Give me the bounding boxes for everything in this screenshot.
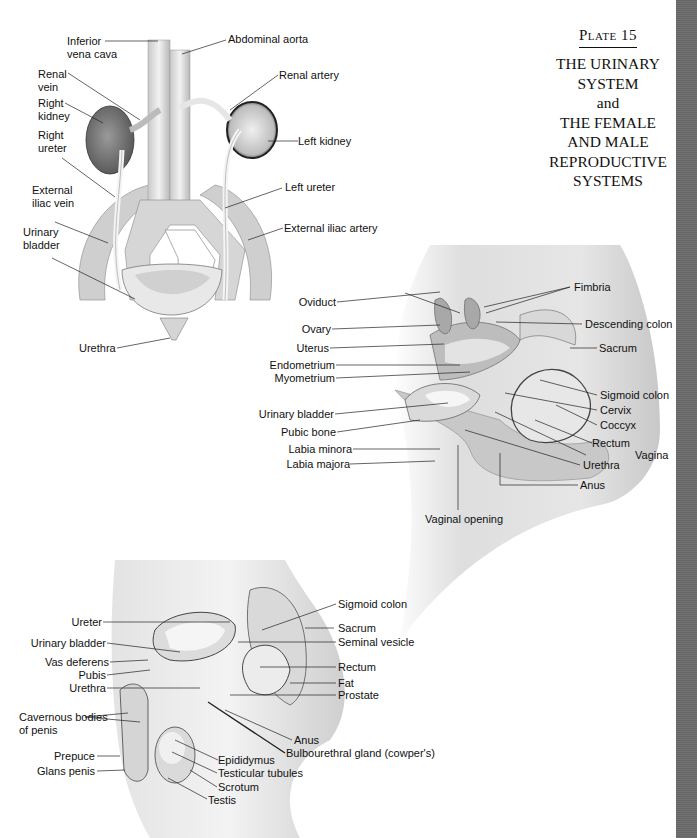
plate-number-value: 15 bbox=[621, 27, 637, 43]
label-renal-artery: Renal artery bbox=[279, 69, 339, 82]
label-urinary-bladder-female: Urinary bladder bbox=[230, 408, 334, 421]
label-sigmoid-colon-female: Sigmoid colon bbox=[600, 389, 669, 402]
label-testis: Testis bbox=[208, 794, 236, 807]
label-prostate: Prostate bbox=[338, 689, 379, 702]
label-right-ureter: Right ureter bbox=[38, 129, 67, 155]
label-ovary: Ovary bbox=[290, 323, 331, 336]
plate-heading: Plate 15 THE URINARY SYSTEM and THE FEMA… bbox=[540, 26, 676, 191]
plate-title: THE URINARY SYSTEM and THE FEMALE AND MA… bbox=[540, 54, 676, 191]
label-abdominal-aorta: Abdominal aorta bbox=[228, 33, 308, 46]
label-rectum-male: Rectum bbox=[338, 661, 376, 674]
label-fimbria: Fimbria bbox=[574, 281, 611, 294]
label-descending-colon: Descending colon bbox=[585, 318, 672, 331]
label-anus-male: Anus bbox=[294, 734, 319, 747]
label-coccyx: Coccyx bbox=[600, 419, 636, 432]
label-ureter: Ureter bbox=[50, 616, 102, 629]
label-right-kidney: Right kidney bbox=[38, 97, 70, 123]
plate-number: Plate 15 bbox=[579, 27, 637, 48]
label-uterus: Uterus bbox=[290, 342, 329, 355]
label-renal-vein: Renal vein bbox=[38, 68, 67, 94]
label-oviduct: Oviduct bbox=[290, 296, 336, 309]
plate-title-line: and bbox=[540, 93, 676, 113]
page-edge-bar bbox=[676, 0, 697, 838]
label-urethra-female: Urethra bbox=[583, 459, 620, 472]
label-sacrum-male: Sacrum bbox=[338, 622, 376, 635]
label-labia-majora: Labia majora bbox=[270, 458, 350, 471]
label-cavernous-bodies: Cavernous bodies of penis bbox=[19, 711, 108, 737]
label-urinary-bladder-male: Urinary bladder bbox=[10, 637, 106, 650]
label-anus-female: Anus bbox=[580, 479, 605, 492]
label-pubis: Pubis bbox=[40, 669, 106, 682]
label-pubic-bone: Pubic bone bbox=[250, 426, 336, 439]
label-testicular-tubules: Testicular tubules bbox=[218, 767, 303, 780]
label-left-kidney: Left kidney bbox=[298, 135, 351, 148]
label-seminal-vesicle: Seminal vesicle bbox=[338, 636, 414, 649]
label-sigmoid-colon-male: Sigmoid colon bbox=[338, 598, 407, 611]
plate-number-label: Plate bbox=[579, 27, 617, 43]
label-scrotum: Scrotum bbox=[218, 781, 259, 794]
urinary-system-illustration bbox=[52, 40, 298, 348]
plate-title-line: THE FEMALE bbox=[540, 113, 676, 133]
label-glans-penis: Glans penis bbox=[20, 765, 95, 778]
label-labia-minora: Labia minora bbox=[270, 443, 352, 456]
label-external-iliac-artery: External iliac artery bbox=[284, 222, 378, 235]
label-myometrium: Myometrium bbox=[240, 372, 335, 385]
label-urethra-male: Urethra bbox=[40, 682, 106, 695]
plate-title-line: SYSTEMS bbox=[540, 171, 676, 191]
label-endometrium: Endometrium bbox=[240, 359, 335, 372]
label-urethra: Urethra bbox=[79, 342, 116, 355]
label-cervix: Cervix bbox=[600, 404, 631, 417]
textbook-plate-page: Plate 15 THE URINARY SYSTEM and THE FEMA… bbox=[0, 0, 697, 838]
label-left-ureter: Left ureter bbox=[285, 181, 335, 194]
label-rectum-female: Rectum bbox=[592, 437, 630, 450]
label-urinary-bladder: Urinary bladder bbox=[23, 226, 60, 252]
label-vaginal-opening: Vaginal opening bbox=[425, 513, 503, 526]
plate-title-line: SYSTEM bbox=[540, 74, 676, 94]
label-vas-deferens: Vas deferens bbox=[20, 656, 109, 669]
label-prepuce: Prepuce bbox=[30, 750, 95, 763]
label-inferior-vena-cava: Inferior vena cava bbox=[67, 35, 117, 61]
plate-title-line: AND MALE bbox=[540, 132, 676, 152]
label-epididymus: Epididymus bbox=[218, 754, 275, 767]
label-vagina: Vagina bbox=[635, 449, 668, 462]
plate-title-line: REPRODUCTIVE bbox=[540, 152, 676, 172]
label-bulbourethral-gland: Bulbourethral gland (cowper's) bbox=[286, 747, 435, 760]
label-external-iliac-vein: External iliac vein bbox=[32, 184, 74, 210]
plate-title-line: THE URINARY bbox=[540, 54, 676, 74]
label-sacrum-female: Sacrum bbox=[599, 342, 637, 355]
